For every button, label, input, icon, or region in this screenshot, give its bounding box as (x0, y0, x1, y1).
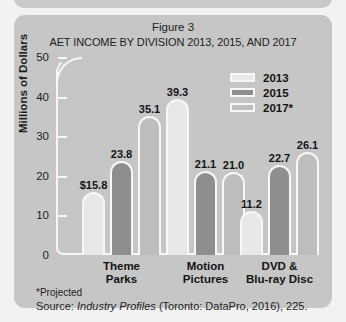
bar-value-label: 39.3 (167, 86, 188, 98)
source-prefix: Source: (36, 300, 77, 312)
bar: 35.1 (138, 116, 161, 255)
bar: $15.8 (82, 192, 105, 255)
bar-value-label: 22.7 (269, 152, 290, 164)
bar: 23.8 (110, 161, 133, 255)
y-axis-tick (58, 97, 67, 99)
footnote-projected: *Projected (36, 287, 82, 298)
y-axis-title: Millions of Dollars (17, 34, 29, 133)
bar-value-label: 21.0 (223, 159, 244, 171)
bar-value-label: 26.1 (297, 139, 318, 151)
legend-label: 2017* (263, 102, 293, 114)
legend-item: 2015 (230, 86, 293, 99)
y-axis-tick-label: 40 (36, 91, 49, 103)
legend-swatch (230, 73, 255, 82)
legend-item: 2017* (230, 101, 293, 114)
legend-swatch (230, 88, 255, 97)
axis-corner-arc (56, 57, 82, 83)
y-axis-tick (58, 215, 67, 217)
figure-title: AET INCOME BY DIVISION 2013, 2015, AND 2… (14, 36, 332, 48)
legend-label: 2013 (263, 72, 289, 84)
bar: 39.3 (166, 99, 189, 255)
legend-item: 2013 (230, 71, 293, 84)
category-label-line: Blu-ray Disc (220, 273, 340, 286)
y-axis-tick (58, 176, 67, 178)
source-title: Industry Profiles (77, 300, 156, 312)
cropped-panel-above (14, 0, 332, 8)
y-axis-tick (58, 57, 67, 59)
y-axis-tick (58, 136, 67, 138)
bar: 22.7 (268, 165, 291, 255)
bar-value-label: 23.8 (111, 148, 132, 160)
bar-value-label: 35.1 (139, 103, 160, 115)
legend-swatch (230, 103, 255, 112)
figure-card: Figure 3 AET INCOME BY DIVISION 2013, 20… (14, 15, 332, 308)
y-axis-tick-label: 30 (36, 130, 49, 142)
bar: 26.1 (296, 152, 319, 255)
y-axis-tick-label: 10 (36, 209, 49, 221)
y-axis-tick-label: 50 (36, 51, 49, 63)
figure-number-label: Figure 3 (14, 21, 332, 33)
y-axis-tick-label: 0 (43, 249, 49, 261)
y-axis-tick-label: 20 (36, 170, 49, 182)
bar-value-label: $15.8 (80, 179, 108, 191)
source-citation: Source: Industry Profiles (Toronto: Data… (36, 300, 308, 312)
chart-legend: 201320152017* (230, 71, 293, 116)
category-label: DVD &Blu-ray Disc (220, 260, 340, 286)
legend-label: 2015 (263, 87, 289, 99)
bar-value-label: 11.2 (241, 198, 262, 210)
category-label-line: DVD & (220, 260, 340, 273)
bar: 21.1 (194, 171, 217, 255)
bar-value-label: 21.1 (195, 158, 216, 170)
bar: 11.2 (240, 211, 263, 255)
source-suffix: (Toronto: DataPro, 2016), 225. (156, 300, 308, 312)
